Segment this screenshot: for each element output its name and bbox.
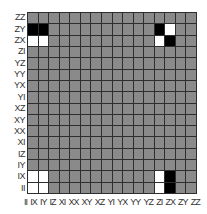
- heatmap-cell: [134, 171, 144, 181]
- x-tick-label: YI: [107, 196, 114, 208]
- heatmap-cell: [134, 81, 144, 91]
- heatmap-cell: [91, 92, 101, 102]
- heatmap-cell: [28, 160, 38, 170]
- y-tick-label: YI: [0, 92, 25, 103]
- y-tick-label: ZX: [0, 35, 25, 46]
- heatmap-cell: [39, 183, 49, 193]
- heatmap-cell: [176, 149, 186, 159]
- heatmap-cell: [113, 70, 123, 80]
- heatmap-cell: [155, 183, 165, 193]
- heatmap-cell: [91, 183, 101, 193]
- heatmap-cell: [113, 171, 123, 181]
- heatmap-cell: [91, 160, 101, 170]
- heatmap-cell: [134, 149, 144, 159]
- heatmap-cell: [81, 70, 91, 80]
- heatmap-cell: [134, 92, 144, 102]
- heatmap-cell: [39, 58, 49, 68]
- heatmap-cell: [102, 24, 112, 34]
- heatmap-cell: [134, 13, 144, 23]
- heatmap-cell: [91, 115, 101, 125]
- heatmap-cell: [91, 171, 101, 181]
- heatmap-cell: [81, 81, 91, 91]
- heatmap-cell: [176, 13, 186, 23]
- heatmap-cell: [155, 171, 165, 181]
- heatmap-cell: [60, 126, 70, 136]
- heatmap-cell: [176, 171, 186, 181]
- heatmap-cell: [49, 58, 59, 68]
- y-tick-label: XX: [0, 126, 25, 137]
- heatmap-cell: [144, 171, 154, 181]
- heatmap-cell: [176, 104, 186, 114]
- heatmap-cell: [102, 70, 112, 80]
- heatmap-cell: [39, 160, 49, 170]
- y-tick-label: YY: [0, 69, 25, 80]
- heatmap-cell: [102, 58, 112, 68]
- heatmap-cell: [81, 115, 91, 125]
- heatmap-cell: [102, 171, 112, 181]
- heatmap-cell: [60, 104, 70, 114]
- heatmap-cell: [102, 137, 112, 147]
- heatmap-cell: [60, 47, 70, 57]
- heatmap-cell: [39, 115, 49, 125]
- heatmap-cell: [102, 160, 112, 170]
- heatmap-cell: [123, 58, 133, 68]
- heatmap-cell: [28, 36, 38, 46]
- heatmap-cell: [60, 70, 70, 80]
- heatmap-cell: [144, 137, 154, 147]
- heatmap-cell: [39, 47, 49, 57]
- heatmap-grid: [27, 12, 197, 194]
- x-tick-label: ZY: [178, 196, 188, 208]
- heatmap-cell: [144, 58, 154, 68]
- heatmap-cell: [39, 104, 49, 114]
- heatmap-cell: [81, 104, 91, 114]
- heatmap-cell: [123, 115, 133, 125]
- heatmap-cell: [176, 160, 186, 170]
- heatmap-cell: [155, 81, 165, 91]
- heatmap-cell: [49, 24, 59, 34]
- heatmap-cell: [49, 137, 59, 147]
- heatmap-cell: [176, 24, 186, 34]
- x-axis-labels: IIIXIYIZXIXXXYXZYIYXYYYZZIZXZYZZ: [24, 196, 200, 208]
- heatmap-cell: [81, 183, 91, 193]
- heatmap-cell: [39, 24, 49, 34]
- heatmap-cell: [176, 47, 186, 57]
- heatmap-cell: [134, 160, 144, 170]
- heatmap-cell: [155, 137, 165, 147]
- heatmap-cell: [102, 115, 112, 125]
- heatmap-cell: [123, 92, 133, 102]
- heatmap-cell: [186, 115, 196, 125]
- heatmap-cell: [91, 81, 101, 91]
- heatmap-cell: [155, 24, 165, 34]
- heatmap-cell: [113, 126, 123, 136]
- heatmap-cell: [28, 126, 38, 136]
- heatmap-cell: [60, 24, 70, 34]
- heatmap-cell: [91, 104, 101, 114]
- heatmap-cell: [134, 47, 144, 57]
- y-tick-label: YZ: [0, 58, 25, 69]
- heatmap-cell: [60, 81, 70, 91]
- heatmap-cell: [113, 183, 123, 193]
- heatmap-cell: [113, 115, 123, 125]
- heatmap-cell: [186, 126, 196, 136]
- heatmap-cell: [176, 36, 186, 46]
- heatmap-cell: [39, 149, 49, 159]
- heatmap-cell: [186, 58, 196, 68]
- heatmap-cell: [49, 92, 59, 102]
- heatmap-cell: [70, 104, 80, 114]
- heatmap-cell: [70, 24, 80, 34]
- heatmap-cell: [102, 183, 112, 193]
- heatmap-cell: [70, 47, 80, 57]
- heatmap-cell: [144, 92, 154, 102]
- pauli-heatmap-chart: ZZZYZXZIYZYYYXYIXZXYXXXIIZIYIXII IIIXIYI…: [0, 0, 207, 214]
- heatmap-cell: [144, 36, 154, 46]
- heatmap-cell: [134, 104, 144, 114]
- heatmap-cell: [28, 115, 38, 125]
- heatmap-cell: [91, 47, 101, 57]
- heatmap-cell: [165, 171, 175, 181]
- heatmap-cell: [134, 24, 144, 34]
- heatmap-cell: [123, 126, 133, 136]
- heatmap-cell: [91, 126, 101, 136]
- heatmap-cell: [186, 36, 196, 46]
- heatmap-cell: [134, 115, 144, 125]
- heatmap-cell: [113, 104, 123, 114]
